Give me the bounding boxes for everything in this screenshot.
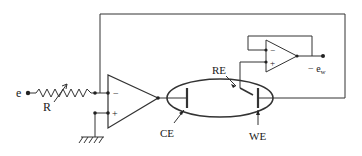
resistor-label: R [43, 100, 51, 114]
re-label: RE [212, 64, 226, 76]
ground-wire [95, 113, 108, 137]
main-op-amp [108, 75, 158, 128]
follower-feedback [248, 36, 312, 56]
follower-plus-label: + [270, 58, 275, 68]
input-label: e [16, 86, 21, 100]
re-pointer [226, 76, 236, 86]
circuit-diagram: e R − + CE RE WE − + − ew [0, 0, 362, 156]
minus-label: − [113, 88, 119, 99]
ground-icon [79, 137, 104, 143]
output-label: − ew [308, 63, 327, 76]
follower-minus-label: − [270, 45, 275, 55]
input-node [26, 91, 30, 95]
reference-electrode [240, 88, 253, 95]
ce-label: CE [160, 127, 174, 139]
output-node [321, 54, 325, 58]
plus-label: + [112, 108, 118, 119]
we-label: WE [249, 130, 266, 142]
output-subscript: w [321, 68, 327, 76]
